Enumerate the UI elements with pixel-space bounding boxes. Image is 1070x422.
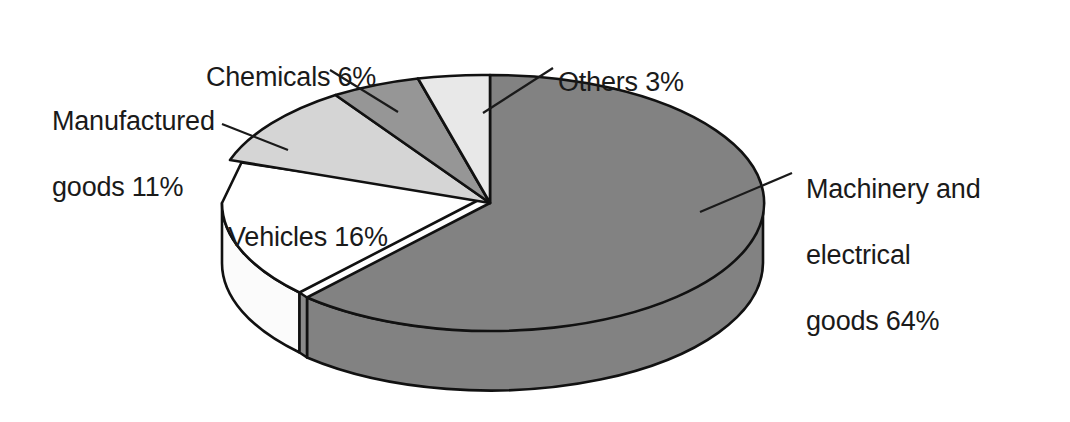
label-others: Others 3% bbox=[558, 33, 684, 99]
slice-side-vehicles-cut bbox=[300, 293, 308, 358]
pie-chart-figure: Chemicals 6% Manufactured goods 11% Vehi… bbox=[0, 0, 1070, 422]
label-machinery-and-electrical-goods: Machinery and electrical goods 64% bbox=[806, 140, 981, 371]
label-machinery-line1: Machinery and bbox=[806, 173, 981, 206]
label-vehicles-text: Vehicles 16% bbox=[228, 222, 388, 252]
label-machinery-line2: electrical bbox=[806, 239, 981, 272]
label-manufactured-goods: Manufactured goods 11% bbox=[52, 72, 215, 237]
label-chemicals-text: Chemicals 6% bbox=[206, 62, 376, 92]
label-vehicles: Vehicles 16% bbox=[228, 188, 388, 254]
label-chemicals: Chemicals 6% bbox=[206, 28, 376, 94]
label-manufactured-goods-line2: goods 11% bbox=[52, 171, 215, 204]
label-machinery-line3: goods 64% bbox=[806, 305, 981, 338]
label-others-text: Others 3% bbox=[558, 67, 684, 97]
label-manufactured-goods-line1: Manufactured bbox=[52, 105, 215, 138]
